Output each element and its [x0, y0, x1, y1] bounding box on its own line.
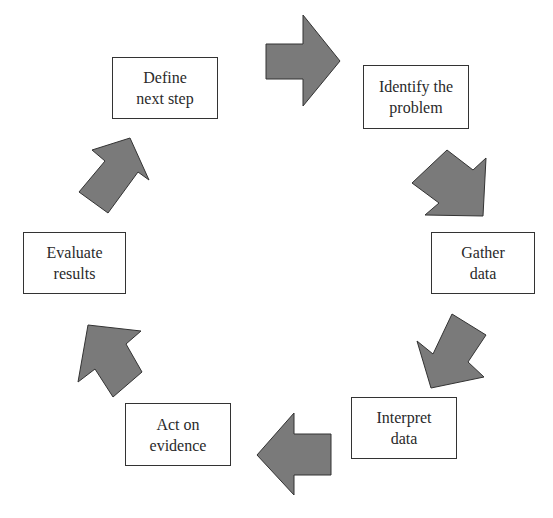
step-label-line: Evaluate: [47, 242, 103, 263]
step-label-line: results: [54, 263, 96, 284]
step-evaluate-results: Evaluate results: [23, 232, 126, 294]
arrow-down-left-icon: [417, 314, 486, 388]
step-label-line: problem: [389, 97, 442, 118]
step-interpret-data: Interpret data: [351, 397, 457, 459]
step-label-line: data: [391, 428, 418, 449]
step-gather-data: Gather data: [431, 232, 535, 294]
step-define-next-step: Define next step: [112, 57, 218, 119]
step-label-line: Interpret: [376, 407, 431, 428]
arrow-right-icon: [266, 15, 340, 106]
step-label-line: evidence: [150, 435, 207, 456]
step-act-on-evidence: Act on evidence: [125, 403, 231, 466]
arrow-up-left-icon: [78, 325, 142, 397]
step-label-line: Act on: [156, 414, 199, 435]
step-label-line: Identify the: [379, 76, 453, 97]
step-label-line: data: [470, 263, 497, 284]
step-label-line: Gather: [461, 242, 505, 263]
step-label-line: next step: [136, 88, 193, 109]
arrow-left-icon: [257, 413, 331, 495]
arrow-down-right-icon: [412, 150, 486, 216]
arrow-up-right-icon: [79, 138, 149, 213]
step-identify-the-problem: Identify the problem: [363, 65, 469, 129]
step-label-line: Define: [143, 67, 187, 88]
